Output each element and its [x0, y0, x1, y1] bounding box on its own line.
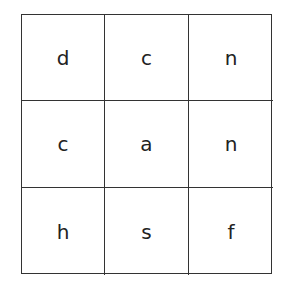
letter-grid: d c n c a n h s f [21, 14, 272, 274]
grid-cell-r2c3: n [189, 101, 273, 188]
grid-cell-r1c3: n [189, 15, 273, 101]
grid-cell-r3c2: s [105, 188, 189, 275]
grid-cell-r2c2: a [105, 101, 189, 188]
grid-cell-r1c2: c [105, 15, 189, 101]
grid-cell-r2c1: c [22, 101, 105, 188]
grid-cell-r3c1: h [22, 188, 105, 275]
grid-cell-r3c3: f [189, 188, 273, 275]
grid-cell-r1c1: d [22, 15, 105, 101]
